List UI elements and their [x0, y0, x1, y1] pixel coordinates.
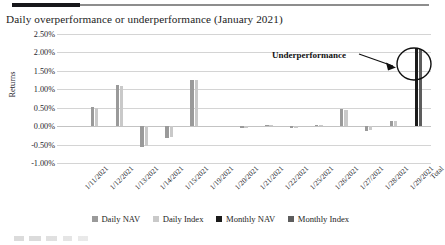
y-axis-tick-label: 0.00% — [3, 122, 55, 131]
bar — [415, 48, 418, 126]
x-axis-tick-label: 1/13/2021 — [133, 164, 161, 192]
chart-figure: Daily overperformance or underperformanc… — [0, 10, 441, 232]
page-top-rule-accent — [12, 3, 80, 7]
bar — [240, 126, 243, 128]
y-axis-tick-label: 1.50% — [3, 66, 55, 75]
bar — [419, 49, 422, 126]
legend-label: Daily Index — [163, 214, 204, 224]
x-axis-tick-labels: 1/11/20211/12/20211/13/20211/14/20211/15… — [57, 164, 431, 210]
bar — [170, 126, 173, 137]
bar — [344, 110, 347, 126]
legend-item[interactable]: Daily Index — [153, 214, 203, 224]
y-axis-tick-label: -1.00% — [3, 159, 55, 168]
bar — [294, 126, 297, 127]
y-axis-tick-label: 2.00% — [3, 48, 55, 57]
legend-swatch-icon — [288, 216, 294, 222]
bar — [394, 121, 397, 126]
bar — [290, 126, 293, 128]
y-axis-tick-label: 1.00% — [3, 85, 55, 94]
bar — [365, 126, 368, 130]
bar — [91, 107, 94, 126]
legend-swatch-icon — [92, 216, 98, 222]
x-axis-tick-label: 1/21/2021 — [258, 164, 286, 192]
bar — [116, 85, 119, 126]
gridline — [57, 89, 431, 90]
x-axis-tick-label: 1/11/2021 — [83, 164, 110, 191]
bar — [145, 126, 148, 146]
gridline — [57, 108, 431, 109]
bar — [120, 86, 123, 126]
y-axis-tick-label: -0.50% — [3, 140, 55, 149]
legend-item[interactable]: Daily NAV — [92, 214, 140, 224]
bar — [340, 109, 343, 126]
gridline — [57, 145, 431, 146]
x-axis-tick-label: 1/12/2021 — [108, 164, 136, 192]
bar — [265, 125, 268, 126]
bar — [319, 125, 322, 126]
x-axis-tick-label: 1/27/2021 — [358, 164, 386, 192]
underperformance-annotation-label: Underperformance — [272, 50, 346, 60]
bar — [244, 126, 247, 128]
page-bottom-caption-fragment — [14, 236, 88, 241]
legend-item[interactable]: Monthly NAV — [216, 214, 275, 224]
legend-item[interactable]: Monthly Index — [288, 214, 349, 224]
x-axis-tick-label: 1/14/2021 — [158, 164, 186, 192]
gridline — [57, 71, 431, 72]
legend-label: Monthly NAV — [226, 214, 275, 224]
y-axis-tick-label: 0.50% — [3, 103, 55, 112]
x-axis-tick-label: 1/26/2021 — [333, 164, 361, 192]
y-axis-tick-label: 2.50% — [3, 30, 55, 39]
x-axis-tick-label: 1/28/2021 — [382, 164, 410, 192]
bar — [190, 80, 193, 126]
y-axis-tick-labels: 2.50%2.00%1.50%1.00%0.50%0.00%-0.50%-1.0… — [0, 34, 55, 163]
bar — [269, 125, 272, 126]
legend-label: Daily NAV — [101, 214, 140, 224]
bar — [165, 126, 168, 138]
bar — [369, 126, 372, 130]
chart-title: Daily overperformance or underperformanc… — [6, 13, 283, 25]
gridline — [57, 34, 431, 35]
bar — [315, 125, 318, 126]
bar — [390, 121, 393, 126]
x-axis-tick-label: 1/20/2021 — [233, 164, 261, 192]
x-axis-tick-label: 1/19/2021 — [208, 164, 236, 192]
bar — [140, 126, 143, 147]
x-axis-tick-label: 1/25/2021 — [308, 164, 336, 192]
plot-area — [57, 34, 431, 163]
x-axis-tick-label: 1/15/2021 — [183, 164, 211, 192]
legend-swatch-icon — [153, 216, 159, 222]
chart-legend: Daily NAVDaily IndexMonthly NAVMonthly I… — [0, 214, 441, 224]
legend-swatch-icon — [216, 216, 222, 222]
legend-label: Monthly Index — [298, 214, 349, 224]
gridline — [57, 52, 431, 53]
bar — [95, 108, 98, 126]
bar — [195, 80, 198, 126]
x-axis-tick-label: 1/22/2021 — [283, 164, 311, 192]
